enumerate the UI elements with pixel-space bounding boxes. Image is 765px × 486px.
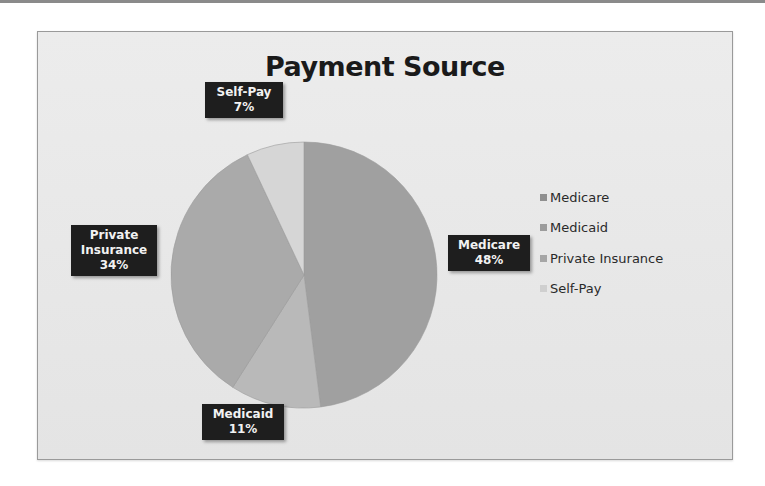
data-label-medicare-value: 48%	[454, 253, 524, 268]
pie-slices	[171, 142, 437, 408]
data-label-medicaid: Medicaid 11%	[202, 404, 284, 440]
data-label-medicaid-name: Medicaid	[208, 407, 278, 422]
chart-legend: Medicare Medicaid Private Insurance Self…	[540, 182, 663, 304]
legend-swatch-self-pay	[540, 285, 547, 292]
legend-swatch-medicaid	[540, 224, 547, 231]
data-label-self-pay: Self-Pay 7%	[205, 82, 283, 118]
data-label-self-pay-value: 7%	[211, 100, 277, 115]
legend-label-self-pay: Self-Pay	[550, 281, 601, 296]
data-label-medicare: Medicare 48%	[448, 235, 530, 271]
legend-label-medicaid: Medicaid	[550, 220, 608, 235]
data-label-private-line2: Insurance	[77, 243, 151, 258]
pie-slice-medicare[interactable]	[304, 142, 437, 407]
data-label-medicaid-value: 11%	[208, 422, 278, 437]
legend-swatch-private-insurance	[540, 255, 547, 262]
legend-item-private-insurance[interactable]: Private Insurance	[540, 243, 663, 274]
data-label-private-insurance: Private Insurance 34%	[71, 225, 157, 276]
data-label-private-line1: Private	[77, 228, 151, 243]
data-label-medicare-name: Medicare	[454, 238, 524, 253]
data-label-private-value: 34%	[77, 258, 151, 273]
legend-item-self-pay[interactable]: Self-Pay	[540, 274, 663, 305]
legend-label-medicare: Medicare	[550, 190, 609, 205]
legend-item-medicare[interactable]: Medicare	[540, 182, 663, 213]
legend-label-private-insurance: Private Insurance	[550, 251, 663, 266]
data-label-self-pay-name: Self-Pay	[211, 85, 277, 100]
legend-item-medicaid[interactable]: Medicaid	[540, 213, 663, 244]
legend-swatch-medicare	[540, 194, 547, 201]
